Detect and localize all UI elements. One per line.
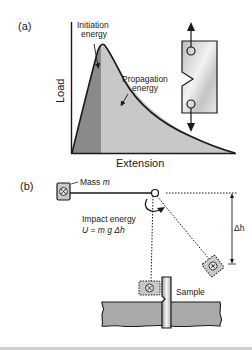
delta-h-label: Δh [234,223,245,233]
mass-label-pointer [71,182,78,184]
sample-post [162,277,171,328]
panel-b: (b) Mass m Impact energy U = m g Δh Δh [20,177,245,328]
delta-h-arrow-up-icon [230,193,234,198]
pendulum-mass-end [202,255,224,277]
formula-eq: = [88,225,98,235]
panel-b-label: (b) [20,180,33,192]
initiation-label-line2: energy [81,29,108,39]
mass-symbol: m [103,177,110,187]
arrowhead-down-icon [187,123,195,132]
notched-specimen [182,22,217,132]
figure-canvas: (a) Load Extension Initiation energy Pro… [0,0,252,350]
impact-energy-label: Impact energy [82,214,137,224]
y-axis-label: Load [54,79,66,103]
pivot-point [152,190,159,197]
mass-label-prefix: Mass [80,177,103,187]
formula-rhs: m g Δh [98,225,125,235]
panel-a: (a) Load Extension Initiation energy Pro… [18,20,236,169]
arrowhead-up-icon [187,22,195,31]
panel-a-label: (a) [18,20,31,32]
delta-h-arrow-down-icon [230,259,234,264]
sample-label: Sample [176,287,205,297]
dotted-arm-swing [157,196,209,259]
propagation-label-line2: energy [132,83,159,93]
mass-label: Mass m [80,177,110,187]
dotted-arm-vertical [151,196,153,283]
impact-formula: U = m g Δh [82,225,125,235]
x-axis-label: Extension [116,157,164,169]
